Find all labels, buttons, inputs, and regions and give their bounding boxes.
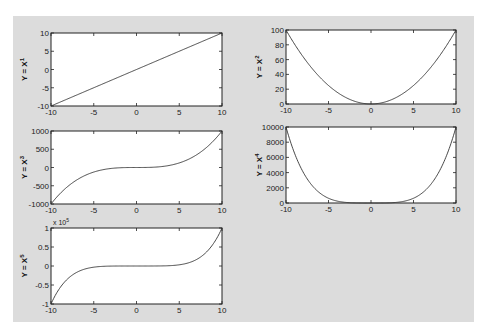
x-tick-label: 5 [177, 306, 182, 315]
axis-multiplier: x 105 [53, 217, 69, 226]
subplot-4: -10-505100200040006000800010000Y = X4 [254, 123, 461, 214]
x-tick-label: 5 [177, 206, 182, 215]
y-axis-label: Y = X4 [254, 153, 264, 177]
y-axis-label: Y = X1 [19, 57, 29, 81]
x-tick-label: 10 [218, 306, 227, 315]
x-tick-label: -5 [325, 106, 333, 115]
y-axis-label-exponent: 4 [254, 153, 260, 157]
y-tick-label: -1000 [29, 200, 50, 209]
y-tick-label: 10000 [262, 123, 285, 132]
y-tick-label: 0 [280, 100, 285, 109]
x-tick-label: 5 [177, 108, 182, 117]
y-axis-label-exponent: 1 [19, 57, 25, 61]
y-axis-label: Y = X2 [254, 55, 264, 79]
y-axis-label-exponent: 5 [19, 254, 25, 258]
x-tick-label: 5 [411, 106, 416, 115]
y-axis-label-exponent: 2 [254, 55, 260, 59]
y-tick-label: 0 [280, 199, 285, 208]
x-tick-label: 0 [369, 106, 374, 115]
y-tick-label: 60 [275, 56, 284, 65]
x-tick-label: 0 [134, 306, 139, 315]
y-tick-label: -1 [42, 300, 50, 309]
y-tick-label: 8000 [266, 138, 284, 147]
y-tick-label: -0.5 [35, 281, 49, 290]
y-tick-label: 6000 [266, 153, 284, 162]
y-tick-label: 40 [275, 70, 284, 79]
y-tick-label: 500 [36, 145, 50, 154]
y-tick-label: -500 [33, 182, 50, 191]
y-tick-label: 0 [45, 66, 50, 75]
y-tick-label: -5 [42, 84, 50, 93]
y-tick-label: 0 [45, 164, 50, 173]
y-tick-label: 5 [45, 47, 50, 56]
y-tick-label: 10 [40, 29, 49, 38]
axes-box [286, 127, 456, 203]
figure-canvas: -10-50510-10-50510Y = X1-10-505100204060… [0, 0, 488, 334]
x-tick-label: 10 [452, 106, 461, 115]
x-tick-label: 0 [134, 108, 139, 117]
y-tick-label: 2000 [266, 184, 284, 193]
y-tick-label: 20 [275, 85, 284, 94]
y-axis-label: Y = X3 [19, 155, 29, 179]
y-tick-label: 0.5 [38, 243, 50, 252]
x-tick-label: -5 [90, 108, 98, 117]
y-tick-label: 0 [45, 262, 50, 271]
x-tick-label: -5 [325, 205, 333, 214]
y-axis-label-exponent: 3 [19, 155, 25, 159]
x-tick-label: 10 [218, 108, 227, 117]
y-tick-label: 4000 [266, 169, 284, 178]
x-tick-label: 0 [134, 206, 139, 215]
subplot-3: -10-50510-1000-50005001000Y = X3 [19, 127, 227, 215]
y-tick-label: 100 [271, 26, 285, 35]
axis-multiplier-exponent: 5 [66, 217, 69, 223]
x-tick-label: 10 [218, 206, 227, 215]
y-tick-label: -10 [37, 102, 49, 111]
x-tick-label: -5 [90, 206, 98, 215]
x-tick-label: 10 [452, 205, 461, 214]
y-tick-label: 1000 [31, 127, 49, 136]
x-tick-label: -5 [90, 306, 98, 315]
y-tick-label: 1 [45, 224, 50, 233]
x-tick-label: 5 [411, 205, 416, 214]
y-tick-label: 80 [275, 41, 284, 50]
subplot-2: -10-50510020406080100Y = X2 [254, 26, 461, 115]
axes-box [286, 30, 456, 104]
y-axis-label: Y = X5 [19, 254, 29, 278]
subplot-1: -10-50510-10-50510Y = X1 [19, 29, 227, 117]
subplot-5: -10-50510-1-0.500.51Y = X5x 105 [19, 217, 227, 315]
x-tick-label: 0 [369, 205, 374, 214]
